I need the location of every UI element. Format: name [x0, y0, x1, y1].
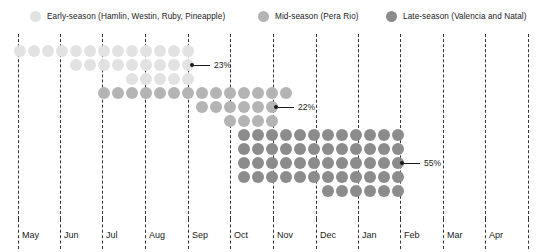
dot-late-season [252, 129, 264, 141]
dot-late-season [392, 129, 404, 141]
dot-late-season [294, 129, 306, 141]
dot-late-season [308, 171, 320, 183]
dot-early-season [140, 73, 152, 85]
dot-mid-season [126, 87, 138, 99]
chart-legend: Early-season (Hamlin, Westin, Ruby, Pine… [0, 0, 560, 34]
axis-label-jan: Jan [362, 230, 377, 240]
dot-mid-season [196, 101, 208, 113]
axis-label-dec: Dec [320, 230, 336, 240]
dot-late-season [350, 129, 362, 141]
dot-late-season [308, 157, 320, 169]
dot-late-season [252, 143, 264, 155]
axis-tick-3 [145, 219, 146, 249]
legend-item-early-season[interactable]: Early-season (Hamlin, Westin, Ruby, Pine… [30, 9, 225, 23]
dot-late-season [392, 171, 404, 183]
dot-late-season [364, 157, 376, 169]
dot-late-season [280, 143, 292, 155]
dot-late-season [336, 185, 348, 197]
dot-early-season [112, 45, 124, 57]
dot-late-season [322, 185, 334, 197]
annotation-label: 23% [214, 59, 231, 71]
axis-tick-1 [60, 219, 61, 249]
axis-tick-0 [18, 219, 19, 249]
legend-item-label: Mid-season (Pera Rio) [275, 11, 359, 22]
dot-mid-season [154, 87, 166, 99]
dot-mid-season [182, 87, 194, 99]
dot-late-season [336, 129, 348, 141]
dot-early-season [182, 73, 194, 85]
axis-label-may: May [22, 230, 39, 240]
axis-tick-5 [230, 219, 231, 249]
dot-early-season [98, 59, 110, 71]
dot-late-season [336, 157, 348, 169]
dot-late-season [392, 143, 404, 155]
legend-item-label: Early-season (Hamlin, Westin, Ruby, Pine… [47, 11, 225, 22]
dot-mid-season [266, 87, 278, 99]
dot-late-season [294, 171, 306, 183]
gridline-10 [443, 34, 444, 219]
dot-early-season [70, 59, 82, 71]
axis-label-sep: Sep [192, 230, 208, 240]
dot-late-season [238, 157, 250, 169]
dot-early-season [154, 59, 166, 71]
dot-early-season [154, 45, 166, 57]
axis-tick-12 [528, 219, 529, 249]
annotation-22pct: 22% [274, 101, 315, 113]
gridline-0 [18, 34, 19, 219]
dot-mid-season [168, 87, 180, 99]
dot-late-season [266, 157, 278, 169]
dot-early-season [126, 59, 138, 71]
dot-late-season [294, 157, 306, 169]
dot-mid-season [224, 115, 236, 127]
axis-tick-6 [273, 219, 274, 249]
dot-late-season [378, 143, 390, 155]
dot-early-season [14, 45, 26, 57]
legend-swatch-icon [386, 11, 397, 22]
dot-late-season [378, 171, 390, 183]
x-axis: MayJunJulAugSepOctNovDecJanFebMarApr [0, 219, 560, 252]
dot-late-season [364, 143, 376, 155]
axis-label-mar: Mar [447, 230, 463, 240]
dot-mid-season [224, 87, 236, 99]
dot-late-season [322, 157, 334, 169]
dot-late-season [350, 143, 362, 155]
gridline-12 [528, 34, 529, 219]
dot-late-season [280, 157, 292, 169]
dot-mid-season [280, 87, 292, 99]
dot-early-season [70, 45, 82, 57]
dot-late-season [336, 171, 348, 183]
axis-label-feb: Feb [404, 230, 420, 240]
dot-late-season [266, 129, 278, 141]
dot-late-season [364, 171, 376, 183]
dot-mid-season [224, 101, 236, 113]
dot-early-season [112, 59, 124, 71]
dot-late-season [294, 143, 306, 155]
axis-tick-2 [102, 219, 103, 249]
annotation-label: 55% [424, 157, 441, 169]
dot-mid-season [252, 115, 264, 127]
axis-label-aug: Aug [149, 230, 165, 240]
dot-early-season [168, 45, 180, 57]
dot-early-season [84, 45, 96, 57]
dot-mid-season [238, 87, 250, 99]
dot-late-season [350, 157, 362, 169]
dot-early-season [140, 59, 152, 71]
dot-early-season [126, 73, 138, 85]
axis-tick-8 [358, 219, 359, 249]
dot-mid-season [210, 87, 222, 99]
dot-mid-season [238, 101, 250, 113]
dot-early-season [56, 45, 68, 57]
legend-item-mid-season[interactable]: Mid-season (Pera Rio) [258, 9, 359, 23]
dot-late-season [350, 171, 362, 183]
dot-late-season [322, 129, 334, 141]
dot-early-season [168, 59, 180, 71]
dot-late-season [238, 143, 250, 155]
dot-mid-season [252, 87, 264, 99]
dot-mid-season [252, 101, 264, 113]
dot-late-season [252, 157, 264, 169]
annotation-23pct: 23% [190, 59, 231, 71]
legend-swatch-icon [258, 11, 269, 22]
axis-label-apr: Apr [489, 230, 503, 240]
axis-tick-4 [188, 219, 189, 249]
legend-item-late-season[interactable]: Late-season (Valencia and Natal) [386, 9, 527, 23]
